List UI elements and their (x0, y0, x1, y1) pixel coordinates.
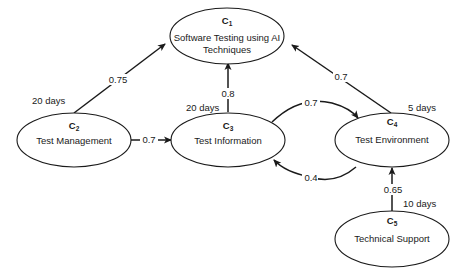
node-label: Technical Support (354, 233, 430, 244)
node-duration: 20 days (186, 102, 220, 113)
node-c2: C2 Test Management 20 days (17, 95, 131, 167)
node-duration: 5 days (408, 102, 436, 113)
edge-c3-c4: 0.7 (272, 97, 358, 122)
edge-weight: 0.7 (334, 71, 347, 82)
edge-weight: 0.7 (142, 134, 155, 145)
node-label: Test Information (194, 135, 262, 146)
node-label: Software Testing using AI (174, 32, 281, 43)
cognitive-map-diagram: 0.75 0.8 0.7 0.7 0.7 0.4 0.65 C1 Softwar… (0, 0, 467, 279)
edge-c5-c4: 0.65 (382, 168, 404, 211)
edge-weight: 0.75 (109, 74, 128, 85)
edge-c2-c3: 0.7 (131, 134, 171, 145)
node-c1: C1 Software Testing using AI Techniques (170, 8, 284, 64)
edge-weight: 0.65 (384, 184, 403, 195)
node-duration: 20 days (32, 95, 66, 106)
node-label: Techniques (203, 44, 251, 55)
node-label: Test Environment (355, 134, 429, 145)
edge-c4-c3: 0.4 (274, 160, 356, 183)
edge-weight: 0.7 (304, 97, 317, 108)
edge-c2-c1: 0.75 (74, 44, 165, 113)
edge-weight: 0.8 (221, 88, 234, 99)
edge-weight: 0.4 (304, 172, 317, 183)
edge-c3-c1: 0.8 (220, 63, 236, 112)
node-label: Test Management (36, 135, 112, 146)
node-duration: 10 days (403, 198, 437, 209)
